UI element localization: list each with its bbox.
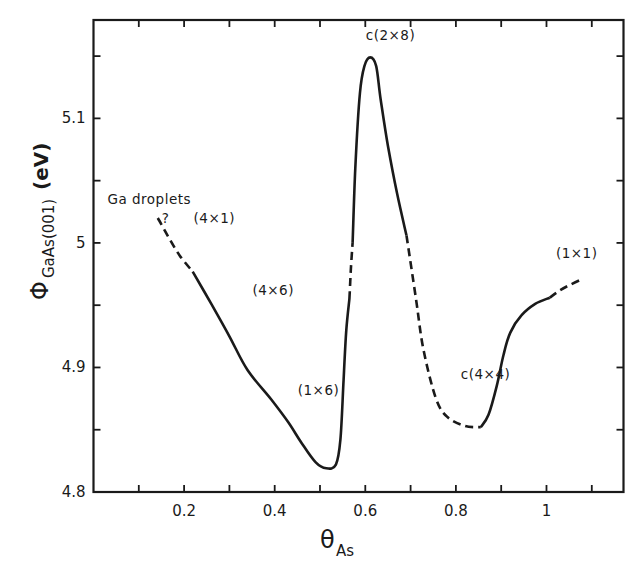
curve-segment-dashed [349,243,352,299]
data-curve [158,57,580,468]
annotation-label: c(2×8) [366,27,415,43]
x-tick-label: 0.8 [444,502,468,520]
curve-segment-solid [193,272,350,469]
y-tick-label: 5 [76,234,86,252]
y-tick-label: 5.1 [62,109,86,127]
annotation-label: (4×1) [194,210,236,226]
x-tick-label: 0.6 [353,502,377,520]
curve-segment-dashed [550,280,580,297]
y-axis-label-subscript: GaAs(001) [40,199,58,278]
x-tick-label: 1 [542,502,552,520]
x-tick-label: 0.4 [263,502,287,520]
curve-segment-dashed [407,236,481,428]
annotation-label: Ga droplets [108,191,192,207]
annotation-label: (1×1) [556,245,598,261]
x-axis-label-symbol: θ [320,526,335,554]
annotation-label: c(4×4) [461,366,510,382]
curve-segment-dashed [158,218,193,272]
plot-border [94,20,624,492]
annotation-label: (1×6) [298,382,340,398]
y-axis-label-unit: (eV) [29,143,53,190]
axis-ticks: 0.20.40.60.814.84.955.1 [62,20,624,520]
x-axis-label-subscript: As [336,542,354,560]
curve-segment-solid [353,57,407,243]
annotation-label: (4×6) [252,282,294,298]
chart: 0.20.40.60.814.84.955.1 Ga droplets?(4×1… [0,0,632,566]
y-tick-label: 4.8 [62,483,86,501]
x-tick-label: 0.2 [172,502,196,520]
annotation-label: ? [162,210,170,226]
y-axis-label-symbol: Φ [26,281,54,300]
y-tick-label: 4.9 [62,358,86,376]
curve-segment-solid [481,298,550,428]
plot-frame [94,20,624,492]
x-axis-label: θ As [320,526,354,560]
y-axis-label: Φ GaAs(001) (eV) [26,143,58,300]
